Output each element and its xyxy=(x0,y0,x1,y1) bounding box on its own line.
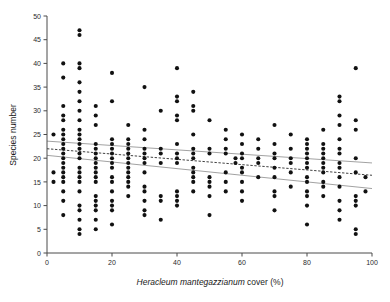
data-point xyxy=(159,218,163,222)
y-tick-label: 0 xyxy=(37,250,41,257)
data-point xyxy=(110,166,114,170)
x-axis-title-species: Heracleum mantegazzianum xyxy=(137,277,245,287)
data-point xyxy=(110,99,114,103)
data-point xyxy=(191,175,195,179)
data-point xyxy=(77,204,81,208)
data-point xyxy=(77,33,81,37)
data-point xyxy=(305,161,309,165)
data-point xyxy=(305,194,309,198)
data-point xyxy=(77,66,81,70)
data-point xyxy=(94,156,98,160)
data-point xyxy=(126,175,130,179)
data-point xyxy=(289,161,293,165)
data-point xyxy=(94,208,98,212)
data-point xyxy=(94,151,98,155)
x-tick-label: 40 xyxy=(173,259,181,266)
data-point xyxy=(142,147,146,151)
data-point xyxy=(77,170,81,174)
data-point xyxy=(207,147,211,151)
data-point xyxy=(94,147,98,151)
data-point xyxy=(77,80,81,84)
data-point xyxy=(77,99,81,103)
data-point xyxy=(321,128,325,132)
x-axis-title: Heracleum mantegazzianum cover (%) xyxy=(137,277,284,287)
data-point xyxy=(126,137,130,141)
data-point xyxy=(77,151,81,155)
data-point xyxy=(94,194,98,198)
data-point xyxy=(61,156,65,160)
data-point xyxy=(337,185,341,189)
data-point xyxy=(94,175,98,179)
data-point xyxy=(240,156,244,160)
data-point xyxy=(77,180,81,184)
data-point xyxy=(51,180,55,184)
data-point xyxy=(94,123,98,127)
data-point xyxy=(126,161,130,165)
data-point xyxy=(110,199,114,203)
data-point xyxy=(61,175,65,179)
data-point xyxy=(337,147,341,151)
data-point xyxy=(175,113,179,117)
data-point xyxy=(321,170,325,174)
data-point xyxy=(159,109,163,113)
data-point xyxy=(61,199,65,203)
data-point xyxy=(142,189,146,193)
data-point xyxy=(305,175,309,179)
data-point xyxy=(126,147,130,151)
data-point xyxy=(256,175,260,179)
data-point xyxy=(94,180,98,184)
data-point xyxy=(305,151,309,155)
data-point xyxy=(77,166,81,170)
data-point xyxy=(233,156,237,160)
data-point xyxy=(159,147,163,151)
data-point xyxy=(272,189,276,193)
data-point xyxy=(61,161,65,165)
data-point xyxy=(289,170,293,174)
data-point xyxy=(337,218,341,222)
data-point xyxy=(126,123,130,127)
data-point xyxy=(224,189,228,193)
y-tick-label: 15 xyxy=(33,179,41,186)
data-point xyxy=(240,132,244,136)
data-point xyxy=(110,151,114,155)
data-point xyxy=(233,161,237,165)
data-point xyxy=(61,113,65,117)
data-point xyxy=(224,170,228,174)
data-point xyxy=(110,137,114,141)
axis-frame xyxy=(47,16,372,253)
data-point xyxy=(175,189,179,193)
data-point xyxy=(354,66,358,70)
data-point xyxy=(77,137,81,141)
data-point xyxy=(94,199,98,203)
data-point xyxy=(207,185,211,189)
data-point xyxy=(175,194,179,198)
data-point xyxy=(321,166,325,170)
data-point xyxy=(337,113,341,117)
data-point xyxy=(272,151,276,155)
data-point xyxy=(61,166,65,170)
data-point xyxy=(224,151,228,155)
data-point xyxy=(61,76,65,80)
data-point xyxy=(337,199,341,203)
data-point xyxy=(305,156,309,160)
data-point xyxy=(240,170,244,174)
data-point xyxy=(175,99,179,103)
x-axis-title-suffix: cover (%) xyxy=(245,277,284,287)
y-tick-label: 40 xyxy=(33,60,41,67)
data-point xyxy=(354,156,358,160)
data-point xyxy=(77,208,81,212)
data-point xyxy=(110,142,114,146)
data-point xyxy=(337,95,341,99)
data-point xyxy=(94,218,98,222)
data-point xyxy=(159,194,163,198)
data-point xyxy=(61,132,65,136)
data-point xyxy=(175,151,179,155)
data-point xyxy=(77,218,81,222)
data-point xyxy=(354,232,358,236)
data-point xyxy=(240,189,244,193)
data-point xyxy=(337,166,341,170)
data-point xyxy=(110,180,114,184)
data-point xyxy=(77,61,81,65)
data-point xyxy=(77,128,81,132)
data-point xyxy=(207,194,211,198)
